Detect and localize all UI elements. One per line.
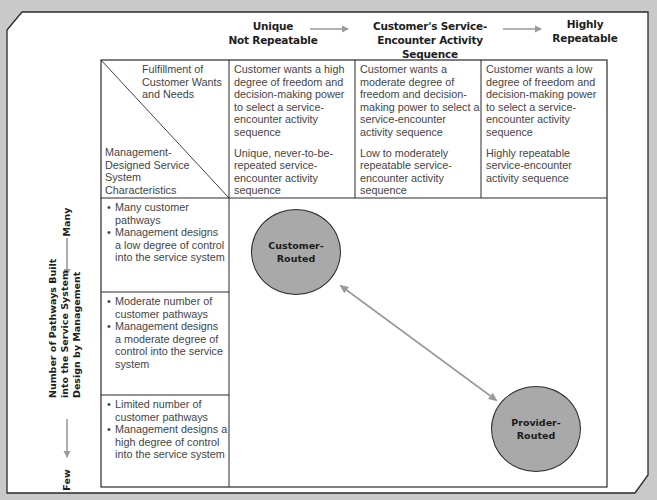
row-3-characteristics: Limited number of customer pathways Mana… [108, 398, 228, 461]
column-1-header: Customer wants a high degree of freedom … [234, 63, 354, 197]
row-2-characteristics: Moderate number of customer pathways Man… [108, 295, 226, 371]
top-axis-center-label: Customer's Service- Encounter Activity S… [360, 19, 500, 61]
provider-routed-node: Provider- Routed [491, 386, 581, 472]
row-3-bullet-2: Management designs a high degree of cont… [108, 423, 228, 461]
top-axis-right-line2: Repeatable [545, 31, 625, 45]
column-2-characteristics: Low to moderately repeatable service-enc… [360, 147, 480, 197]
row-3-bullet-1: Limited number of customer pathways [108, 398, 228, 423]
top-axis-right-line1: Highly [545, 17, 625, 31]
top-axis-center-line2: Encounter Activity Sequence [360, 33, 500, 61]
column-3-characteristics: Highly repeatable service-encounter acti… [486, 147, 604, 185]
column-2-header: Customer wants a moderate degree of free… [360, 63, 480, 197]
corner-bottom-left-text: Management-Designed Service System Chara… [105, 146, 195, 196]
left-axis-many-label: Many [61, 202, 73, 242]
top-axis-left-label: Unique Not Repeatable [228, 19, 318, 47]
row-2-bullet-2: Management designs a moderate degree of … [108, 320, 226, 370]
left-axis-center-line2: into the Service System [59, 278, 71, 398]
customer-routed-node: Customer- Routed [251, 209, 341, 295]
top-axis-right-label: Highly Repeatable [545, 17, 625, 45]
left-axis-few-label: Few [61, 460, 73, 500]
customer-routed-line1: Customer- [268, 239, 323, 252]
left-axis-center-line1: Number of Pathways Built [47, 278, 59, 398]
column-3-header: Customer wants a low degree of freedom a… [486, 63, 604, 184]
column-3-wants: Customer wants a low degree of freedom a… [486, 63, 604, 139]
provider-routed-line2: Routed [511, 429, 561, 442]
top-axis-left-line2: Not Repeatable [228, 33, 318, 47]
customer-routed-line2: Routed [268, 252, 323, 265]
top-axis-left-line1: Unique [228, 19, 318, 33]
row-2-bullet-1: Moderate number of customer pathways [108, 295, 226, 320]
row-1-characteristics: Many customer pathways Management design… [108, 201, 226, 264]
row-1-bullet-2: Management designs a low degree of contr… [108, 226, 226, 264]
top-axis-center-line1: Customer's Service- [360, 19, 500, 33]
column-1-wants: Customer wants a high degree of freedom … [234, 63, 354, 139]
corner-top-right-text: Fulfillment of Customer Wants and Needs [142, 63, 228, 101]
column-2-wants: Customer wants a moderate degree of free… [360, 63, 480, 139]
provider-routed-line1: Provider- [511, 416, 561, 429]
row-1-bullet-1: Many customer pathways [108, 201, 226, 226]
left-axis-center-label: Number of Pathways Built into the Servic… [47, 278, 87, 398]
left-axis-center-line3: Design by Management [71, 278, 83, 398]
column-1-characteristics: Unique, never-to-be-repeated service-enc… [234, 147, 354, 197]
